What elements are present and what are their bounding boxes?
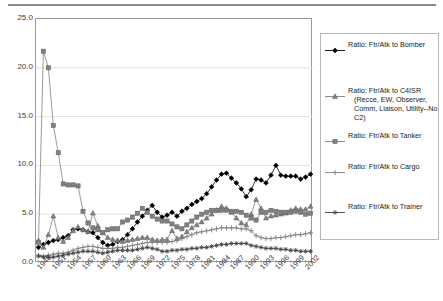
y-tick-label: 20.0	[3, 63, 33, 71]
data-point-marker	[249, 243, 254, 248]
data-point-marker	[61, 239, 66, 244]
data-point-marker	[199, 229, 204, 234]
data-point-marker	[209, 208, 213, 212]
plot-svg	[36, 19, 313, 263]
legend-entry-4[interactable]: Ratio: Ftr/Atk to Trainer	[324, 202, 438, 212]
chart-page: 0.05.010.015.020.025.0 19481951195419571…	[0, 0, 443, 301]
data-point-marker	[269, 173, 274, 178]
data-point-marker	[189, 225, 194, 230]
legend-label-continued: Comm, Liaison, Utility--No	[348, 104, 437, 113]
data-point-marker	[170, 222, 174, 226]
data-point-marker	[66, 183, 70, 187]
data-point-marker	[120, 220, 124, 224]
plot-area	[35, 18, 312, 262]
data-point-marker	[303, 175, 308, 180]
data-point-marker	[209, 227, 214, 232]
data-point-marker	[81, 209, 85, 213]
data-point-marker	[145, 240, 150, 245]
data-point-marker	[239, 226, 244, 231]
legend-entry-0[interactable]: Ratio: Ftr/Atk to Bomber	[324, 40, 438, 50]
y-tick-label: 15.0	[3, 112, 33, 120]
data-point-marker	[244, 241, 249, 246]
legend-entry-3[interactable]: Ratio: Ftr/Atk to Cargo	[324, 162, 438, 172]
data-point-marker	[264, 246, 269, 251]
data-point-marker	[199, 245, 204, 250]
data-point-marker	[273, 235, 278, 240]
data-point-marker	[224, 208, 228, 212]
data-point-marker	[190, 219, 194, 223]
data-point-marker	[259, 245, 264, 250]
data-point-marker	[303, 249, 308, 254]
y-tick-label: 5.0	[3, 209, 33, 217]
data-point-marker	[249, 216, 253, 220]
legend-label: Ratio: Ftr/Atk to Tanker	[346, 131, 421, 140]
data-point-marker	[56, 151, 60, 155]
data-point-marker	[204, 215, 209, 220]
data-point-marker	[274, 163, 279, 168]
data-point-marker	[234, 209, 238, 213]
data-point-marker	[96, 228, 100, 232]
data-point-marker	[278, 173, 283, 178]
data-point-marker	[85, 244, 90, 249]
data-point-marker	[294, 209, 298, 213]
data-point-marker	[214, 226, 219, 231]
data-point-marker	[263, 236, 268, 241]
data-point-marker	[170, 228, 175, 233]
data-point-marker	[284, 210, 288, 214]
legend-marker-icon	[324, 203, 346, 212]
data-point-marker	[308, 211, 312, 215]
legend-marker-icon	[324, 132, 346, 141]
data-point-marker	[125, 218, 129, 222]
data-point-marker	[56, 235, 61, 240]
data-point-marker	[219, 225, 224, 230]
data-point-marker	[150, 214, 154, 218]
legend-entry-2[interactable]: Ratio: Ftr/Atk to Tanker	[324, 131, 438, 141]
data-point-marker	[254, 197, 259, 202]
data-point-marker	[308, 172, 313, 177]
data-point-marker	[332, 170, 337, 175]
data-point-marker	[155, 247, 160, 252]
data-point-marker	[180, 227, 184, 231]
data-point-marker	[264, 210, 268, 214]
y-tick-label: 10.0	[3, 160, 33, 168]
data-point-marker	[155, 217, 159, 221]
data-point-marker	[135, 242, 140, 247]
data-point-marker	[185, 223, 189, 227]
data-point-marker	[71, 183, 75, 187]
data-point-marker	[140, 241, 145, 246]
data-point-marker	[274, 209, 278, 213]
data-point-marker	[239, 241, 244, 246]
legend-entry-1[interactable]: Ratio: Ftr/Atk to C4ISR(Recce, EW, Obser…	[324, 86, 438, 122]
legend-marker-icon	[324, 41, 346, 50]
data-point-marker	[140, 246, 145, 251]
data-point-marker	[61, 182, 65, 186]
data-point-marker	[293, 232, 298, 237]
data-point-marker	[293, 248, 298, 253]
data-point-marker	[299, 210, 303, 214]
data-point-marker	[46, 66, 50, 70]
data-point-marker	[288, 233, 293, 238]
legend-marker-icon	[324, 87, 346, 96]
data-point-marker	[254, 244, 259, 249]
data-point-marker	[229, 241, 234, 246]
data-point-marker	[308, 249, 313, 254]
data-point-marker	[279, 247, 284, 252]
data-point-marker	[288, 248, 293, 253]
data-point-marker	[46, 232, 51, 237]
data-point-marker	[283, 234, 288, 239]
data-point-marker	[224, 242, 229, 247]
data-point-marker	[289, 210, 293, 214]
data-point-marker	[234, 241, 239, 246]
data-point-marker	[86, 221, 90, 225]
data-point-marker	[180, 247, 185, 252]
chart-legend: Ratio: Ftr/Atk to BomberRatio: Ftr/Atk t…	[320, 33, 439, 240]
data-point-marker	[303, 212, 307, 216]
x-axis: 1948195119541957196019631966196919721975…	[35, 263, 315, 301]
data-point-marker	[224, 225, 229, 230]
data-point-marker	[165, 219, 169, 223]
data-point-marker	[333, 48, 338, 53]
data-point-marker	[95, 223, 100, 228]
data-point-marker	[81, 249, 86, 254]
data-point-marker	[254, 177, 259, 182]
data-point-marker	[258, 235, 263, 240]
